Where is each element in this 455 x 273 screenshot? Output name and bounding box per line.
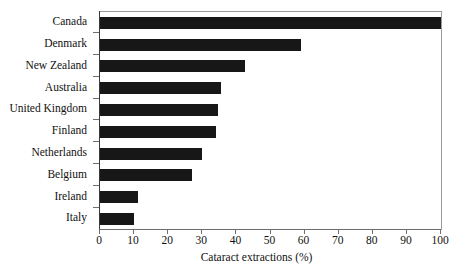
x-tick-label: 20 — [161, 235, 173, 247]
bar-finland[interactable] — [100, 126, 216, 138]
plot-area — [99, 11, 442, 230]
bar-slot-denmark — [100, 34, 441, 56]
bar-slot-canada — [100, 12, 441, 34]
x-tick-label: 40 — [230, 235, 242, 247]
bar-belgium[interactable] — [100, 169, 192, 181]
x-tick-label: 90 — [400, 235, 412, 247]
x-tick-label: 30 — [196, 235, 208, 247]
bar-slot-united-kingdom — [100, 99, 441, 121]
y-axis-label-united-kingdom: United Kingdom — [0, 98, 93, 120]
y-axis-label-finland: Finland — [0, 120, 93, 142]
bar-slot-italy — [100, 208, 441, 230]
bar-netherlands[interactable] — [100, 148, 202, 160]
y-axis-label-australia: Australia — [0, 76, 93, 98]
bar-italy[interactable] — [100, 213, 134, 225]
bar-ireland[interactable] — [100, 191, 138, 203]
x-tick-label: 100 — [431, 235, 448, 247]
y-axis-labels: Canada Denmark New Zealand Australia Uni… — [0, 11, 93, 229]
bar-slot-australia — [100, 77, 441, 99]
bar-slot-ireland — [100, 186, 441, 208]
x-tick-label: 80 — [366, 235, 378, 247]
y-axis-label-netherlands: Netherlands — [0, 142, 93, 164]
x-tick-label: 10 — [127, 235, 139, 247]
bar-slot-new-zealand — [100, 56, 441, 78]
x-tick-label: 70 — [332, 235, 344, 247]
bar-slot-belgium — [100, 165, 441, 187]
y-axis-label-belgium: Belgium — [0, 164, 93, 186]
y-axis-label-italy: Italy — [0, 207, 93, 229]
bar-australia[interactable] — [100, 82, 221, 94]
y-axis-label-ireland: Ireland — [0, 185, 93, 207]
x-tick-label: 0 — [96, 235, 102, 247]
y-axis-label-canada: Canada — [0, 11, 93, 33]
bar-canada[interactable] — [100, 17, 441, 29]
bar-slot-netherlands — [100, 143, 441, 165]
bar-chart: Canada Denmark New Zealand Australia Uni… — [0, 0, 455, 273]
y-axis-label-denmark: Denmark — [0, 33, 93, 55]
x-tick-label: 50 — [264, 235, 276, 247]
bar-denmark[interactable] — [100, 39, 301, 51]
bar-united-kingdom[interactable] — [100, 104, 218, 116]
y-axis-label-new-zealand: New Zealand — [0, 55, 93, 77]
y-axis-line — [99, 11, 100, 230]
x-tick-label: 60 — [298, 235, 310, 247]
bar-slot-finland — [100, 121, 441, 143]
bar-new-zealand[interactable] — [100, 60, 245, 72]
x-axis-title: Cataract extractions (%) — [0, 252, 455, 264]
bars-layer — [100, 12, 441, 230]
